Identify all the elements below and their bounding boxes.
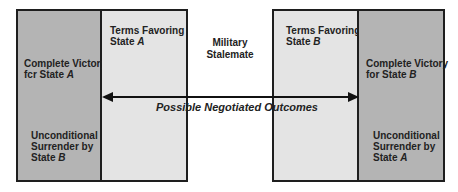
surrender-line2: Surrender by [373,141,440,152]
terms-state-letter: B [313,36,320,47]
surrender-line2: Surrender by [31,141,98,152]
terms-line2-prefix: State [110,36,137,47]
victory-line2: for State B [366,69,448,80]
terms-favoring-state-a-label: Terms Favoring State A [110,25,184,47]
surrender-line1: Unconditional [31,130,98,141]
arrowhead-left-icon [102,92,113,102]
terms-line2: State A [110,36,184,47]
negotiated-outcomes-arrow-shaft [104,96,356,98]
victory-line1: Complete Victory [24,58,106,69]
victory-line2-prefix: for State [366,69,409,80]
surrender-state-letter: B [58,152,65,163]
complete-victory-state-b-panel: Complete Victory for State B Uncondition… [359,11,443,180]
unconditional-surrender-state-b-label: Unconditional Surrender by State B [31,130,98,163]
military-stalemate-label: Military Stalemate [206,37,254,61]
possible-negotiated-outcomes-label: Possible Negotiated Outcomes [156,101,304,113]
victory-state-letter: B [409,69,416,80]
victory-line2: fcr State A [24,69,106,80]
surrender-line3-prefix: State [31,152,58,163]
stalemate-line2: Stalemate [206,49,254,61]
terms-favoring-state-b-label: Terms Favoring State B [286,25,360,47]
surrender-line3-prefix: State [373,152,400,163]
surrender-line3: State B [31,152,98,163]
terms-line1: Terms Favoring [286,25,360,36]
victory-state-letter: A [67,69,74,80]
complete-victory-state-b-label: Complete Victory for State B [366,58,448,80]
arrowhead-right-icon [348,92,359,102]
terms-state-letter: A [137,36,144,47]
complete-victory-state-a-label: Complete Victory fcr State A [24,58,106,80]
terms-line2-prefix: State [286,36,313,47]
surrender-state-letter: A [400,152,407,163]
victory-line2-prefix: fcr State [24,69,67,80]
stalemate-line1: Military [206,37,254,49]
unconditional-surrender-state-a-label: Unconditional Surrender by State A [373,130,440,163]
victory-line1: Complete Victory [366,58,448,69]
terms-line2: State B [286,36,360,47]
surrender-line3: State A [373,152,440,163]
complete-victory-state-a-panel: Complete Victory fcr State A Uncondition… [18,11,102,180]
surrender-line1: Unconditional [373,130,440,141]
terms-line1: Terms Favoring [110,25,184,36]
